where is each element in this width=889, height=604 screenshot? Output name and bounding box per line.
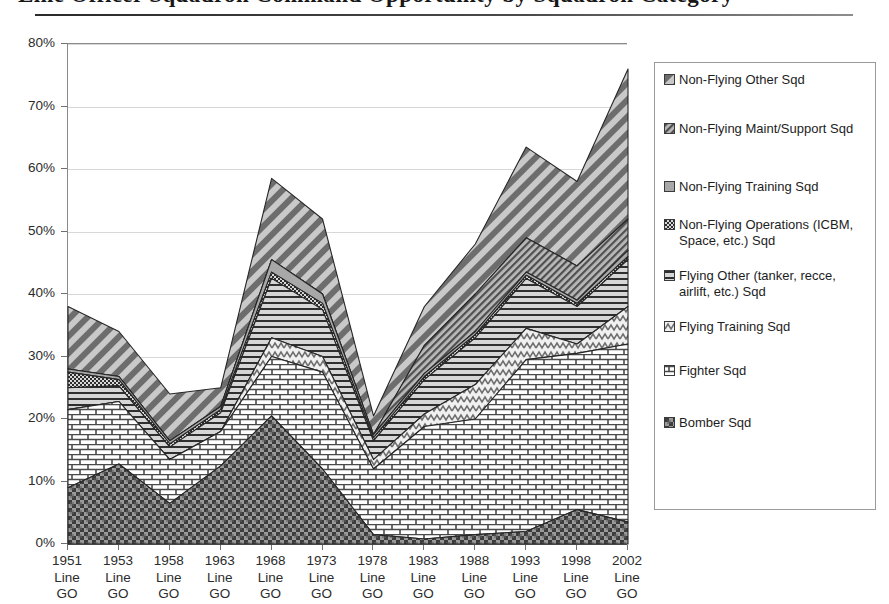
x-axis-go: GO [192, 586, 248, 603]
x-axis-line: Line [395, 570, 451, 587]
x-axis-line: Line [39, 570, 95, 587]
x-axis-tick-label: 1988LineGO [446, 553, 502, 603]
x-axis-go: GO [90, 586, 146, 603]
legend-swatch-horizontal-line-icon [664, 270, 675, 281]
x-axis-line: Line [294, 570, 350, 587]
chart-container: 0%10%20%30%40%50%60%70%80% [0, 16, 889, 604]
x-axis-go: GO [599, 586, 655, 603]
chart-legend: Non-Flying Other SqdNon-Flying Maint/Sup… [654, 62, 876, 510]
legend-item[interactable]: Fighter Sqd [664, 363, 870, 379]
x-axis-tick-label: 1951LineGO [39, 553, 95, 603]
x-axis-line: Line [344, 570, 400, 587]
x-axis-tick-label: 1973LineGO [294, 553, 350, 603]
x-axis-tick-label: 1958LineGO [141, 553, 197, 603]
x-axis-line: Line [548, 570, 604, 587]
y-axis-tick-label: 40% [0, 285, 55, 300]
x-axis-go: GO [294, 586, 350, 603]
x-axis-tick-mark [423, 545, 424, 550]
x-axis-go: GO [39, 586, 95, 603]
x-axis-go: GO [497, 586, 553, 603]
y-axis-tick-label: 0% [0, 535, 55, 550]
x-axis-go: GO [395, 586, 451, 603]
x-axis-tick-mark [627, 545, 628, 550]
x-axis-year: 1963 [192, 553, 248, 570]
legend-swatch-zigzag-light-icon [664, 321, 675, 332]
x-axis-tick-label: 2002LineGO [599, 553, 655, 603]
x-axis-tick-mark [118, 545, 119, 550]
x-axis-line: Line [90, 570, 146, 587]
x-axis-year: 1953 [90, 553, 146, 570]
legend-item[interactable]: Non-Flying Maint/Support Sqd [664, 121, 870, 137]
y-axis-tick-label: 10% [0, 473, 55, 488]
x-axis-tick-mark [322, 545, 323, 550]
page-title: Line Officer Squadron Command Opportunit… [18, 0, 734, 8]
page-title-band: Line Officer Squadron Command Opportunit… [0, 0, 889, 15]
legend-item[interactable]: Flying Training Sqd [664, 319, 870, 335]
legend-item-label: Bomber Sqd [679, 415, 751, 431]
legend-swatch-solid-gray-icon [664, 181, 675, 192]
y-axis-tick-label: 30% [0, 348, 55, 363]
x-axis-line: Line [599, 570, 655, 587]
legend-swatch-checker-dark-icon [664, 417, 675, 428]
chart-page: Line Officer Squadron Command Opportunit… [0, 0, 889, 604]
x-axis-year: 1993 [497, 553, 553, 570]
x-axis-tick-label: 1978LineGO [344, 553, 400, 603]
x-axis-tick-mark [525, 545, 526, 550]
x-axis-tick-label: 1968LineGO [243, 553, 299, 603]
x-axis-go: GO [344, 586, 400, 603]
legend-item-label: Fighter Sqd [679, 363, 746, 379]
x-axis-go: GO [446, 586, 502, 603]
legend-item[interactable]: Bomber Sqd [664, 415, 870, 431]
legend-item-label: Flying Other (tanker, recce, airlift, et… [679, 268, 870, 299]
y-axis-tick-label: 60% [0, 160, 55, 175]
x-axis-go: GO [243, 586, 299, 603]
x-axis-year: 1973 [294, 553, 350, 570]
legend-swatch-brick-icon [664, 365, 675, 376]
x-axis-year: 1958 [141, 553, 197, 570]
x-axis-line: Line [446, 570, 502, 587]
x-axis-tick-label: 1963LineGO [192, 553, 248, 603]
x-axis-line: Line [141, 570, 197, 587]
x-axis-tick-mark [169, 545, 170, 550]
legend-item[interactable]: Non-Flying Operations (ICBM, Space, etc.… [664, 217, 870, 248]
x-axis-tick-mark [220, 545, 221, 550]
x-axis-tick-label: 1993LineGO [497, 553, 553, 603]
x-axis-tick-mark [474, 545, 475, 550]
x-axis-line: Line [192, 570, 248, 587]
x-axis-go: GO [548, 586, 604, 603]
x-axis-line: Line [243, 570, 299, 587]
y-axis-tick-label: 50% [0, 223, 55, 238]
x-axis-tick-label: 1998LineGO [548, 553, 604, 603]
legend-item[interactable]: Flying Other (tanker, recce, airlift, et… [664, 268, 870, 299]
x-axis-year: 1998 [548, 553, 604, 570]
legend-item[interactable]: Non-Flying Training Sqd [664, 179, 870, 195]
x-axis-year: 1951 [39, 553, 95, 570]
x-axis-tick-mark [271, 545, 272, 550]
x-axis-year: 1983 [395, 553, 451, 570]
x-axis-tick-mark [67, 545, 68, 550]
x-axis-year: 1988 [446, 553, 502, 570]
y-axis-tick-label: 20% [0, 410, 55, 425]
x-axis-year: 1968 [243, 553, 299, 570]
legend-swatch-checker-dot-icon [664, 219, 675, 230]
x-axis-tick-mark [372, 545, 373, 550]
legend-item[interactable]: Non-Flying Other Sqd [664, 72, 870, 88]
legend-swatch-diagonal-stripe-dark-icon [664, 74, 675, 85]
y-axis-tick-label: 80% [0, 35, 55, 50]
legend-item-label: Non-Flying Operations (ICBM, Space, etc.… [679, 217, 870, 248]
legend-swatch-diagonal-stripe-gray-icon [664, 123, 675, 134]
x-axis-go: GO [141, 586, 197, 603]
x-axis-tick-mark [576, 545, 577, 550]
x-axis-tick-label: 1953LineGO [90, 553, 146, 603]
x-axis-tick-label: 1983LineGO [395, 553, 451, 603]
legend-item-label: Flying Training Sqd [679, 319, 790, 335]
legend-item-label: Non-Flying Other Sqd [679, 72, 805, 88]
plot-area [67, 43, 627, 545]
x-axis-year: 1978 [344, 553, 400, 570]
x-axis-line: Line [497, 570, 553, 587]
legend-item-label: Non-Flying Maint/Support Sqd [679, 121, 853, 137]
stacked-area-series [68, 44, 628, 544]
x-axis-year: 2002 [599, 553, 655, 570]
y-axis-tick-label: 70% [0, 98, 55, 113]
legend-item-label: Non-Flying Training Sqd [679, 179, 818, 195]
